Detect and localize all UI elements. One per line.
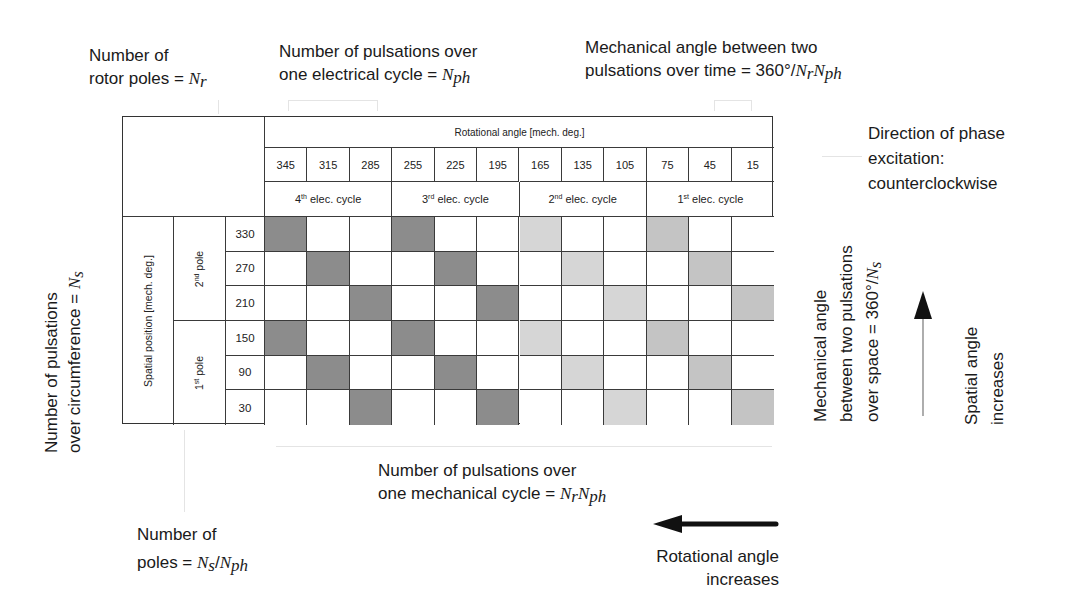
header-text: Spatial position [mech. deg.]	[142, 255, 154, 387]
rotational-angle-cell: 285	[350, 148, 392, 182]
spatial-angle-cell: 150	[226, 321, 265, 356]
rotational-angle-cell: 105	[604, 148, 646, 182]
spatial-angle-cell: 270	[226, 252, 265, 287]
pulsation-cell-medium	[732, 286, 774, 321]
angle-value: 150	[235, 332, 254, 344]
pulsation-cell-empty	[647, 390, 689, 425]
pulsation-cell-dark	[265, 217, 307, 252]
angle-value: 165	[531, 159, 549, 171]
pulsation-cell-medium	[647, 217, 689, 252]
pulsation-cell-empty	[732, 252, 774, 287]
pulsation-cell-empty	[647, 356, 689, 391]
pulsation-cell-empty	[477, 356, 519, 391]
pole-label-cell: 1st pole	[174, 321, 226, 425]
pulsation-cell-empty	[265, 252, 307, 287]
pulsation-cell-dark	[435, 252, 477, 287]
pulsation-cell-dark	[265, 321, 307, 356]
angle-value: 330	[235, 228, 254, 240]
pulsation-cell-medium	[647, 321, 689, 356]
pulsation-cell-dark	[392, 217, 434, 252]
pulsation-cell-empty	[562, 390, 604, 425]
pulsation-cell-empty	[392, 252, 434, 287]
pulsation-cell-light	[562, 252, 604, 287]
spatial-angle-cell: 90	[226, 356, 265, 391]
pulsation-cell-empty	[307, 321, 349, 356]
ordinal-label: 2nd pole	[193, 250, 205, 286]
pulsation-cell-dark	[477, 286, 519, 321]
spatial-angle-cell: 30	[226, 390, 265, 425]
pulsation-cell-empty	[265, 390, 307, 425]
angle-value: 315	[319, 159, 337, 171]
rotational-angle-cell: 45	[689, 148, 731, 182]
spatial-position-header: Spatial position [mech. deg.]	[123, 217, 174, 425]
rotational-angle-cell: 15	[732, 148, 774, 182]
corner-blank	[123, 117, 265, 217]
elec-cycle-cell: 1st elec. cycle	[647, 182, 774, 217]
pulsation-cell-light	[562, 356, 604, 391]
pulsation-cell-empty	[392, 390, 434, 425]
angle-value: 45	[704, 159, 716, 171]
pulsation-cell-medium	[732, 390, 774, 425]
rotational-angle-cell: 195	[477, 148, 519, 182]
pulsation-cell-empty	[689, 321, 731, 356]
pulsation-cell-empty	[604, 356, 646, 391]
angle-value: 30	[239, 402, 252, 414]
pulsation-cell-empty	[689, 390, 731, 425]
angle-value: 345	[277, 159, 295, 171]
ordinal-text: elec. cycle	[689, 193, 743, 205]
pole-label-cell: 2nd pole	[174, 217, 226, 321]
pulsation-cell-empty	[520, 252, 562, 287]
pulsation-cell-empty	[435, 286, 477, 321]
pulsation-cell-empty	[520, 390, 562, 425]
pulsation-cell-empty	[520, 286, 562, 321]
header-text: Rotational angle [mech. deg.]	[454, 127, 584, 138]
pulsation-cell-empty	[689, 286, 731, 321]
pulsation-cell-empty	[350, 252, 392, 287]
angle-value: 105	[616, 159, 634, 171]
ordinal-text: elec. cycle	[307, 193, 361, 205]
rotational-left-arrow-icon	[653, 515, 776, 533]
pulsation-cell-dark	[350, 286, 392, 321]
pulsation-cell-medium	[689, 356, 731, 391]
angle-value: 75	[661, 159, 673, 171]
ordinal-label: 4th elec. cycle	[295, 193, 361, 205]
ordinal-label: 3rd elec. cycle	[422, 193, 489, 205]
ordinal-text: pole	[193, 356, 205, 379]
pulsation-cell-empty	[265, 356, 307, 391]
pulsation-cell-dark	[307, 356, 349, 391]
angle-value: 285	[361, 159, 379, 171]
pulsation-cell-empty	[307, 286, 349, 321]
elec-cycle-cell: 3rd elec. cycle	[392, 182, 519, 217]
spatial-up-arrow-icon	[914, 291, 932, 416]
elec-cycle-cell: 2nd elec. cycle	[520, 182, 647, 217]
pulsation-cell-empty	[732, 356, 774, 391]
pulsation-cell-empty	[562, 217, 604, 252]
pulsation-cell-empty	[307, 390, 349, 425]
rotational-angle-cell: 255	[392, 148, 434, 182]
rotational-angle-cell: 315	[307, 148, 349, 182]
pulsation-cell-empty	[477, 252, 519, 287]
pulsation-cell-empty	[350, 321, 392, 356]
pulsation-cell-dark	[307, 252, 349, 287]
ordinal-text: elec. cycle	[562, 193, 616, 205]
pulsation-cell-empty	[392, 356, 434, 391]
ordinal-suffix: st	[193, 379, 200, 384]
spatial-angle-cell: 210	[226, 286, 265, 321]
ordinal-suffix: nd	[193, 273, 200, 281]
pulsation-cell-empty	[477, 217, 519, 252]
ordinal-number: 2	[193, 281, 205, 287]
rotational-angle-cell: 75	[647, 148, 689, 182]
spatial-angle-cell: 330	[226, 217, 265, 252]
pulsation-cell-light	[520, 217, 562, 252]
pulsation-table: Rotational angle [mech. deg.]34531528525…	[122, 116, 773, 424]
angle-value: 135	[573, 159, 591, 171]
ordinal-text: elec. cycle	[434, 193, 488, 205]
rotational-angle-cell: 135	[562, 148, 604, 182]
pulsation-cell-empty	[307, 217, 349, 252]
pulsation-cell-dark	[350, 390, 392, 425]
pulsation-cell-light	[604, 390, 646, 425]
pulsation-cell-empty	[435, 217, 477, 252]
pulsation-cell-light	[604, 286, 646, 321]
angle-value: 195	[489, 159, 507, 171]
rotational-angle-cell: 225	[435, 148, 477, 182]
